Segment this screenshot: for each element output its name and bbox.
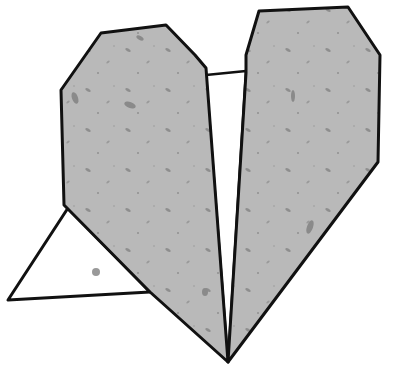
right-heart-lobe (228, 7, 380, 362)
left-heart-lobe (61, 25, 228, 362)
origami-heart-illustration (0, 0, 394, 376)
